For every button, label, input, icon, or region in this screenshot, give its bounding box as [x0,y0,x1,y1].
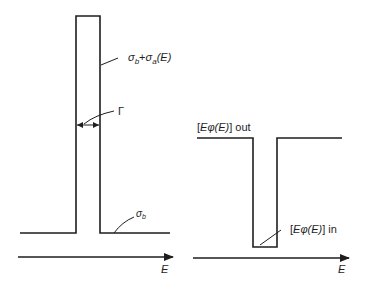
width-label: Γ [118,105,124,117]
energy-axis-label-right: E [338,263,346,275]
width-label-leader [84,111,114,124]
energy-axis-label-left: E [161,263,169,275]
flux-panel: [Eφ(E)] out [Eφ(E)] in E [193,121,349,275]
peak-label-leader [101,58,118,65]
baseline-label-leader [114,217,134,233]
resonance-diagram: σb+σa(E) Γ σb E [Eφ(E)] out [Eφ(E)] in E [0,0,365,303]
flux-out-label: [Eφ(E)] out [197,121,251,133]
cross-section-panel: σb+σa(E) Γ σb E [18,16,173,275]
baseline-label: σb [136,208,146,220]
flux-in-label-leader [260,230,281,245]
peak-label: σb+σa(E) [128,51,172,66]
flux-in-label: [Eφ(E)] in [290,223,337,235]
